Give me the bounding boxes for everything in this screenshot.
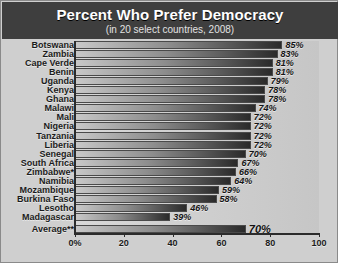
bar-value-label: 58%: [220, 194, 238, 204]
chart-header: Percent Who Prefer Democracy (in 20 sele…: [2, 2, 338, 39]
x-tick-label: 60: [216, 238, 226, 248]
bar: [75, 59, 273, 67]
x-axis-line: [74, 233, 319, 235]
bar: [75, 195, 217, 203]
x-tick: [221, 233, 222, 237]
x-tick-label: 100: [311, 238, 326, 248]
x-tick: [319, 233, 320, 237]
category-label: Madagascar: [0, 212, 74, 222]
bar: [75, 104, 256, 112]
bar: [75, 95, 265, 103]
x-tick: [124, 233, 125, 237]
bar: [75, 204, 187, 212]
x-tick-label: 0%: [68, 238, 81, 248]
chart-subtitle: (in 20 select countries, 2008): [106, 24, 234, 36]
bar: [75, 213, 170, 221]
chart-title: Percent Who Prefer Democracy: [56, 6, 283, 23]
bar: [75, 77, 268, 85]
bar: [75, 50, 278, 58]
bar: [75, 177, 231, 185]
chart-frame: Percent Who Prefer Democracy (in 20 sele…: [0, 0, 338, 263]
x-tick: [270, 233, 271, 237]
x-tick-label: 40: [168, 238, 178, 248]
bar: [75, 159, 238, 167]
bar-value-label: 39%: [173, 212, 191, 222]
average-label: Average**: [0, 224, 74, 234]
bar: [75, 86, 265, 94]
bar-value-label: 46%: [190, 203, 208, 213]
x-tick-label: 20: [119, 238, 129, 248]
bar: [75, 113, 251, 121]
bar: [75, 41, 282, 49]
bar: [75, 150, 246, 158]
bar: [75, 122, 251, 130]
bar: [75, 168, 236, 176]
y-axis-line: [74, 41, 76, 233]
bar: [75, 132, 251, 140]
x-tick-label: 80: [265, 238, 275, 248]
bar: [75, 68, 273, 76]
bar-row: Madagascar39%: [1, 213, 338, 222]
x-tick: [75, 233, 76, 237]
plot-area: Botswana85%Zambia83%Cape Verde81%Benin81…: [1, 39, 338, 263]
bar: [75, 186, 219, 194]
x-tick: [173, 233, 174, 237]
average-bar: [75, 225, 246, 233]
bar: [75, 141, 251, 149]
